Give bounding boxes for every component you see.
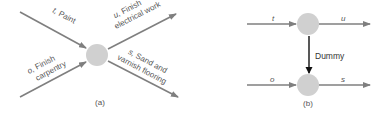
caption-b: (b)	[303, 99, 313, 108]
dummy-label: Dummy	[315, 51, 345, 61]
label-u: u, Finish electrical work	[108, 0, 163, 31]
event-node-bottom	[297, 74, 319, 96]
panel-a: t, Paint o, Finish carpentry u, Finish e…	[20, 0, 178, 107]
panel-b: Dummy t u o s (b)	[247, 13, 370, 108]
label-t: t, Paint	[51, 6, 78, 26]
event-node-a	[86, 44, 108, 66]
caption-a: (a)	[95, 98, 105, 107]
event-node-top	[297, 13, 319, 35]
label-o: o, Finish carpentry	[26, 50, 68, 84]
label-u-b: u	[341, 14, 346, 23]
network-diagram: t, Paint o, Finish carpentry u, Finish e…	[0, 0, 387, 114]
label-t-b: t	[272, 14, 275, 23]
label-o-b: o	[270, 75, 275, 84]
label-s-b: s	[341, 75, 345, 84]
